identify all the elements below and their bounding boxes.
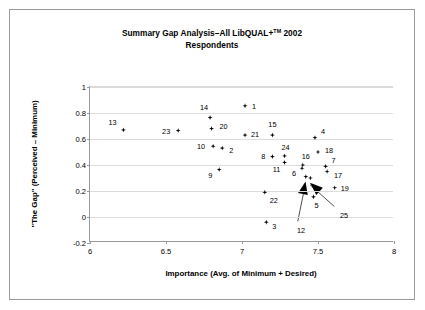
data-point-label: 18 xyxy=(325,146,333,155)
x-tick-label: 7 xyxy=(240,247,244,256)
x-tick-mark xyxy=(394,241,395,244)
data-point-label: 3 xyxy=(272,222,276,231)
y-tick-label: 0.6 xyxy=(75,135,86,144)
data-point-label: 19 xyxy=(341,183,349,192)
data-point-marker[interactable] xyxy=(211,144,216,149)
data-point-marker[interactable] xyxy=(121,127,126,132)
data-point-marker[interactable] xyxy=(332,185,337,190)
data-point-marker[interactable] xyxy=(243,133,248,138)
annotation-leader-line xyxy=(298,183,306,221)
data-point-label: 6 xyxy=(292,169,296,178)
x-tick-label: 6 xyxy=(88,247,92,256)
plot-area: 10.80.60.40.20-0.266.577.581323142010291… xyxy=(89,86,393,242)
figure-border: Summary Gap Analysis–All LibQUAL+TM 2002… xyxy=(9,9,415,300)
data-point-marker[interactable] xyxy=(220,146,225,151)
data-point-label: 8 xyxy=(261,151,265,160)
data-point-marker[interactable] xyxy=(300,163,305,168)
data-point-label: 9 xyxy=(208,170,212,179)
data-point-marker[interactable] xyxy=(308,176,313,181)
data-point-marker[interactable] xyxy=(176,128,181,133)
data-point-label: 16 xyxy=(302,152,310,161)
x-tick-mark xyxy=(166,241,167,244)
data-point-marker[interactable] xyxy=(217,167,222,172)
y-tick-label: 0.8 xyxy=(75,109,86,118)
data-point-marker[interactable] xyxy=(270,133,275,138)
x-tick-mark xyxy=(318,241,319,244)
y-tick-mark xyxy=(87,139,90,140)
gridline-horizontal xyxy=(90,139,393,140)
x-tick-label: 7.5 xyxy=(313,247,324,256)
data-point-label: 22 xyxy=(270,196,278,205)
data-point-label: 7 xyxy=(332,156,336,165)
data-point-label: 5 xyxy=(314,200,318,209)
data-point-label: 17 xyxy=(334,170,342,179)
x-axis-title: Importance (Avg. of Minimum + Desired) xyxy=(89,269,393,278)
gridline-horizontal xyxy=(90,113,393,114)
plot-wrapper: "The Gap" (Perceived – Minimum) 10.80.60… xyxy=(10,10,416,301)
data-point-marker[interactable] xyxy=(311,194,316,199)
data-point-label: 10 xyxy=(197,142,205,151)
x-tick-mark xyxy=(242,241,243,244)
y-tick-label: 1 xyxy=(82,83,86,92)
data-point-marker[interactable] xyxy=(270,154,275,159)
x-tick-label: 6.5 xyxy=(161,247,172,256)
y-tick-mark xyxy=(87,191,90,192)
gridline-horizontal xyxy=(90,87,393,88)
data-point-label: 23 xyxy=(162,126,170,135)
data-point-marker[interactable] xyxy=(316,150,321,155)
y-tick-label: 0 xyxy=(82,213,86,222)
data-point-label: 24 xyxy=(281,142,289,151)
annotation-arrowhead xyxy=(298,181,308,195)
y-tick-label: 0.2 xyxy=(75,187,86,196)
data-point-label: 11 xyxy=(273,165,281,174)
data-point-marker[interactable] xyxy=(208,115,213,120)
data-point-label: 4 xyxy=(321,126,325,135)
data-point-label: 14 xyxy=(200,102,208,111)
y-tick-mark xyxy=(87,217,90,218)
y-tick-mark xyxy=(87,87,90,88)
data-point-label: 25 xyxy=(340,211,348,220)
data-point-marker[interactable] xyxy=(325,169,330,174)
data-point-label: 12 xyxy=(297,226,305,235)
data-point-label: 15 xyxy=(268,120,276,129)
data-point-label: 20 xyxy=(220,121,228,130)
x-tick-label: 8 xyxy=(392,247,396,256)
data-point-marker[interactable] xyxy=(243,103,248,108)
y-axis-title: "The Gap" (Perceived – Minimum) xyxy=(30,86,44,242)
gridline-horizontal xyxy=(90,165,393,166)
annotation-arrowhead xyxy=(310,183,323,195)
data-point-label: 13 xyxy=(108,117,116,126)
data-point-marker[interactable] xyxy=(264,220,269,225)
y-tick-label: -0.2 xyxy=(73,239,86,248)
data-point-label: 1 xyxy=(252,101,256,110)
data-point-label: 2 xyxy=(229,146,233,155)
x-tick-mark xyxy=(90,241,91,244)
y-tick-mark xyxy=(87,113,90,114)
data-point-marker[interactable] xyxy=(209,126,214,131)
data-point-label: 21 xyxy=(251,130,259,139)
y-tick-mark xyxy=(87,165,90,166)
data-point-marker[interactable] xyxy=(303,174,308,179)
y-tick-label: 0.4 xyxy=(75,161,86,170)
data-point-marker[interactable] xyxy=(300,166,305,171)
data-point-marker[interactable] xyxy=(282,153,287,158)
